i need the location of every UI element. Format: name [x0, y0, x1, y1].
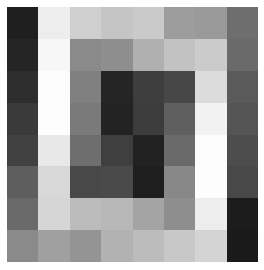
heatmap-cell: [38, 166, 69, 198]
heatmap-cell: [195, 135, 226, 167]
heatmap-cell: [133, 198, 164, 230]
heatmap-cell: [101, 230, 132, 262]
heatmap-cell: [70, 198, 101, 230]
heatmap-cell: [195, 230, 226, 262]
heatmap-cell: [101, 7, 132, 39]
heatmap-cell: [38, 7, 69, 39]
heatmap-grid: [7, 7, 258, 262]
heatmap-cell: [38, 135, 69, 167]
heatmap-cell: [7, 230, 38, 262]
heatmap-cell: [195, 166, 226, 198]
heatmap-cell: [7, 198, 38, 230]
heatmap-cell: [101, 135, 132, 167]
heatmap-cell: [227, 135, 258, 167]
heatmap-cell: [70, 166, 101, 198]
heatmap-cell: [195, 198, 226, 230]
heatmap-cell: [227, 230, 258, 262]
heatmap-cell: [70, 230, 101, 262]
heatmap-cell: [7, 39, 38, 71]
heatmap-cell: [227, 71, 258, 103]
heatmap-cell: [164, 166, 195, 198]
heatmap-cell: [70, 135, 101, 167]
heatmap-cell: [133, 39, 164, 71]
heatmap-cell: [7, 7, 38, 39]
heatmap-cell: [101, 71, 132, 103]
heatmap-cell: [227, 103, 258, 135]
heatmap-cell: [70, 7, 101, 39]
figure-canvas: [0, 0, 264, 270]
heatmap-cell: [133, 135, 164, 167]
heatmap-cell: [101, 198, 132, 230]
heatmap-cell: [70, 39, 101, 71]
heatmap-cell: [227, 7, 258, 39]
heatmap-cell: [133, 166, 164, 198]
heatmap-cell: [227, 166, 258, 198]
heatmap-cell: [195, 39, 226, 71]
heatmap-cell: [101, 39, 132, 71]
heatmap-cell: [164, 39, 195, 71]
heatmap-cell: [38, 230, 69, 262]
heatmap-cell: [164, 230, 195, 262]
heatmap-cell: [164, 103, 195, 135]
heatmap-cell: [164, 7, 195, 39]
heatmap-cell: [133, 230, 164, 262]
heatmap-cell: [164, 71, 195, 103]
heatmap-cell: [7, 135, 38, 167]
heatmap-cell: [227, 39, 258, 71]
heatmap-cell: [7, 103, 38, 135]
heatmap-cell: [70, 71, 101, 103]
heatmap-cell: [38, 103, 69, 135]
heatmap-cell: [38, 71, 69, 103]
heatmap-cell: [227, 198, 258, 230]
heatmap-cell: [133, 103, 164, 135]
heatmap-cell: [38, 39, 69, 71]
heatmap-cell: [164, 135, 195, 167]
heatmap-cell: [195, 71, 226, 103]
heatmap-cell: [101, 166, 132, 198]
heatmap-cell: [7, 166, 38, 198]
heatmap-cell: [164, 198, 195, 230]
heatmap-cell: [195, 7, 226, 39]
heatmap-cell: [101, 103, 132, 135]
heatmap-cell: [7, 71, 38, 103]
heatmap-cell: [133, 71, 164, 103]
heatmap-cell: [133, 7, 164, 39]
heatmap-cell: [195, 103, 226, 135]
heatmap-cell: [38, 198, 69, 230]
heatmap-cell: [70, 103, 101, 135]
